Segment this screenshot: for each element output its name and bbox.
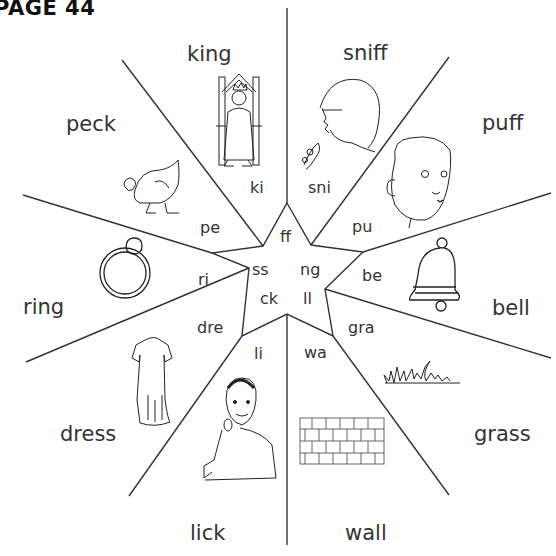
word-ring: ring (23, 297, 64, 318)
wall-picture (300, 418, 384, 464)
segment-wa: wa (304, 345, 327, 361)
segment-ri: ri (198, 272, 209, 288)
segment-ki: ki (250, 180, 264, 196)
bell-picture (410, 238, 460, 311)
word-lick: lick (190, 523, 225, 544)
word-wall: wall (345, 523, 387, 544)
king-picture (216, 74, 262, 166)
sniff-picture (303, 79, 380, 169)
word-bell: bell (492, 298, 530, 319)
word-wheel-diagram (0, 0, 556, 556)
segment-dre: dre (197, 320, 223, 336)
ending-ss: ss (252, 262, 269, 278)
segment-gra: gra (348, 320, 375, 336)
segment-be: be (362, 268, 382, 284)
word-dress: dress (60, 424, 116, 445)
ending-ck: ck (260, 291, 278, 307)
word-sniff: sniff (343, 43, 388, 64)
divider-line (122, 60, 263, 246)
divider-line (23, 195, 212, 253)
ending-ll: ll (303, 291, 312, 307)
divider-line (129, 336, 242, 496)
ending-ng: ng (300, 262, 320, 278)
puff-picture (387, 137, 451, 228)
ring-picture (100, 238, 150, 298)
word-peck: peck (66, 114, 116, 135)
word-king: king (187, 44, 232, 65)
segment-sni: sni (308, 180, 331, 196)
word-grass: grass (474, 424, 531, 445)
peck-picture (124, 160, 179, 213)
divider-line (311, 57, 449, 245)
divider-line (363, 193, 551, 252)
ending-ff: ff (280, 229, 291, 245)
dress-picture (132, 338, 172, 426)
lick-picture (204, 378, 276, 480)
divider-line (333, 336, 449, 495)
segment-pe: pe (200, 220, 220, 236)
word-puff: puff (482, 113, 523, 134)
segment-pu: pu (352, 219, 372, 235)
segment-li: li (254, 346, 263, 362)
grass-picture (384, 361, 460, 383)
